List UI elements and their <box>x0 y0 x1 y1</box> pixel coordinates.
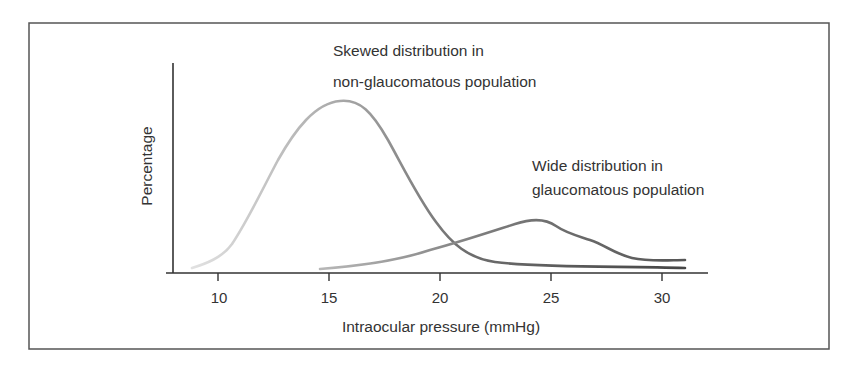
annotation-a-line2: non-glaucomatous population <box>333 73 536 90</box>
annotation-b-line1: Wide distribution in <box>532 157 663 174</box>
iop-distribution-chart: 10 15 20 25 30 Intraocular pressure (mmH… <box>0 0 852 368</box>
x-tick-labels: 10 15 20 25 30 <box>211 289 671 306</box>
annotation-glaucomatous: Wide distribution in glaucomatous popula… <box>532 157 704 198</box>
x-ticks <box>218 273 662 281</box>
tick-label-10: 10 <box>211 289 228 306</box>
y-axis-title: Percentage <box>138 126 155 205</box>
tick-label-20: 20 <box>432 289 449 306</box>
tick-label-30: 30 <box>654 289 671 306</box>
annotation-non-glaucomatous: Skewed distribution in non-glaucomatous … <box>333 42 536 90</box>
annotation-b-line2: glaucomatous population <box>532 181 704 198</box>
tick-label-15: 15 <box>321 289 338 306</box>
annotation-a-line1: Skewed distribution in <box>333 42 484 59</box>
tick-label-25: 25 <box>543 289 560 306</box>
x-axis-title: Intraocular pressure (mmHg) <box>342 318 540 335</box>
